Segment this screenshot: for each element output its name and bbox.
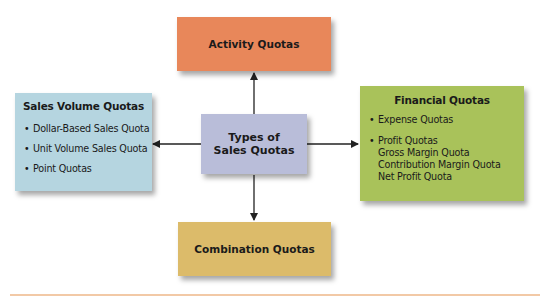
financial-quotas-title: Financial Quotas: [360, 94, 524, 106]
list-item: Unit Volume Sales Quota: [24, 139, 152, 159]
list-item: Profit Quotas: [369, 134, 524, 147]
sales-volume-quotas-box: Sales Volume Quotas Dollar-Based Sales Q…: [15, 93, 152, 191]
combination-quotas-box: Combination Quotas: [178, 222, 331, 276]
sales-volume-quotas-title: Sales Volume Quotas: [15, 100, 152, 112]
list-item: Dollar-Based Sales Quota: [24, 119, 152, 139]
financial-quotas-list: Expense Quotas Profit Quotas: [369, 113, 524, 147]
footer-rule: [10, 294, 540, 296]
sub-list-item: Net Profit Quota: [369, 171, 524, 183]
activity-quotas-title: Activity Quotas: [209, 38, 300, 50]
activity-quotas-box: Activity Quotas: [177, 17, 331, 71]
financial-quotas-box: Financial Quotas Expense Quotas Profit Q…: [360, 86, 524, 201]
combination-quotas-title: Combination Quotas: [194, 243, 314, 255]
center-title-line2: Sales Quotas: [214, 144, 295, 157]
sales-volume-quotas-list: Dollar-Based Sales Quota Unit Volume Sal…: [24, 119, 152, 179]
list-item: Point Quotas: [24, 159, 152, 179]
types-of-sales-quotas-box: Types of Sales Quotas: [201, 114, 307, 174]
list-item: Expense Quotas: [369, 113, 524, 127]
sub-list-item: Gross Margin Quota: [369, 147, 524, 159]
center-title-line1: Types of: [228, 131, 279, 144]
sub-list-item: Contribution Margin Quota: [369, 159, 524, 171]
